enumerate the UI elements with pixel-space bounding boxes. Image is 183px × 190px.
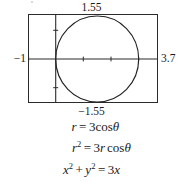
eq2-cosine-function: cos bbox=[105, 140, 124, 155]
equation-line-1: r=3cosθ bbox=[0, 120, 183, 141]
eq3-equals-sign: = bbox=[95, 162, 107, 177]
eq1-equals-sign: = bbox=[77, 119, 89, 134]
window-ymin-label: −1.55 bbox=[0, 106, 183, 118]
eq1-theta-symbol: θ bbox=[113, 119, 120, 134]
eq2-equals-sign: = bbox=[81, 140, 93, 155]
calculator-viewport: 1.55 −1.55 −1 3.7 bbox=[0, 0, 183, 122]
eq1-cosine-function: cos bbox=[95, 119, 112, 134]
equation-line-3: x2+y2=3x bbox=[0, 163, 183, 185]
window-xmax-label: 3.7 bbox=[161, 53, 183, 65]
eq2-theta-symbol: θ bbox=[124, 140, 131, 155]
eq3-plus-sign: + bbox=[73, 162, 85, 177]
polar-graph-plot bbox=[28, 14, 158, 103]
eq1-lhs-variable: r bbox=[72, 119, 77, 134]
eq3-rhs-variable: x bbox=[114, 162, 120, 177]
window-ymax-label: 1.55 bbox=[0, 2, 183, 14]
equation-stack: r=3cosθ r2=3rcosθ x2+y2=3x bbox=[0, 120, 183, 185]
figure-root: 1.55 −1.55 −1 3.7 r=3cosθ r2=3rcosθ x2+y… bbox=[0, 0, 183, 190]
window-xmin-label: −1 bbox=[2, 53, 26, 65]
